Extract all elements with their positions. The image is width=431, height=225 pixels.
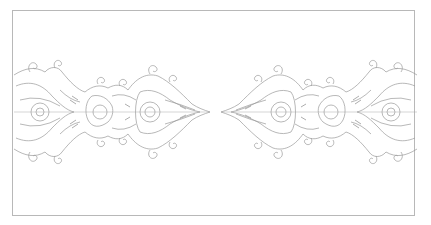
ornament-artwork [0, 0, 431, 225]
ornament-left-half [14, 60, 210, 163]
ornament-right-half [221, 60, 417, 163]
